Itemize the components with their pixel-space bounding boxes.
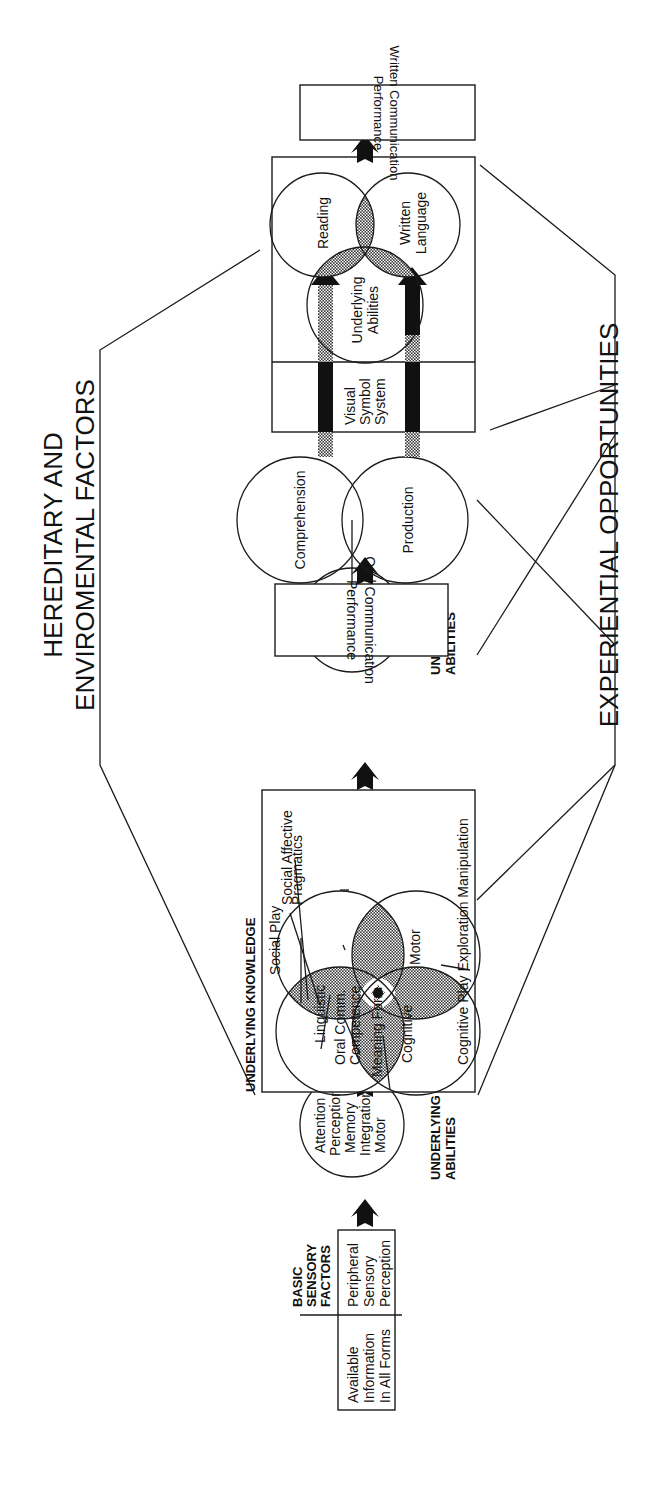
peripheral-line-1: Peripheral xyxy=(345,1243,361,1307)
label-underlying: Underlying xyxy=(349,277,365,344)
experiential-spoke-1 xyxy=(477,765,615,900)
label-language: Language xyxy=(413,192,429,255)
label-symbol: Symbol xyxy=(357,378,373,425)
label-cognitive-play: Cognitive Play Exploration Manipulation xyxy=(455,818,471,1065)
svg-text:Performance: Performance xyxy=(344,580,360,660)
heading-hereditary-line1: HEREDITARY AND xyxy=(38,432,68,657)
basic-sensory-label-1: BASIC xyxy=(290,1266,305,1307)
arrow-icon xyxy=(351,762,379,790)
available-line-2: Information xyxy=(361,1333,377,1403)
label-system: System xyxy=(372,378,388,425)
label-production: Production xyxy=(400,487,416,554)
svg-text:Memory: Memory xyxy=(342,1102,358,1153)
label-oral-comm-1: Oral Comm. xyxy=(332,990,348,1065)
available-line-1: Available xyxy=(345,1346,361,1403)
svg-text:ABILITIES: ABILITIES xyxy=(443,1117,458,1180)
basic-sensory-factors: BASIC SENSORY FACTORS Available Informat… xyxy=(290,1230,402,1410)
svg-text:Integration: Integration xyxy=(357,1090,373,1156)
label-linguistic: Linguistic xyxy=(312,985,328,1043)
label-meaning-form: Meaning Form xyxy=(369,987,385,1077)
knowledge-title: UNDERLYING KNOWLEDGE xyxy=(243,917,258,1092)
label-reading: Reading xyxy=(315,197,331,249)
svg-text:Perception: Perception xyxy=(327,1089,343,1156)
peripheral-line-2: Sensory xyxy=(361,1256,377,1307)
basic-sensory-label-3: FACTORS xyxy=(318,1245,333,1307)
label-oral-comm-2: Competence xyxy=(347,985,363,1065)
svg-text:UNDERLYING: UNDERLYING xyxy=(428,1095,443,1180)
heading-hereditary-line2: ENVIROMENTAL FACTORS xyxy=(70,379,100,711)
label-cognitive: Cognitive xyxy=(399,1004,415,1063)
peripheral-line-3: Perception xyxy=(377,1240,393,1307)
svg-text:Performance: Performance xyxy=(371,76,386,150)
arrow-icon xyxy=(351,1199,379,1227)
underlying-knowledge: UNDERLYING KNOWLEDGE xyxy=(243,790,480,1095)
label-social-play: Social Play xyxy=(267,906,283,975)
written-language-box: Visual Symbol System Reading Written Lan… xyxy=(270,157,475,457)
language-development-diagram: HEREDITARY AND ENVIROMENTAL FACTORS EXPE… xyxy=(0,0,651,1485)
label-visual: Visual xyxy=(342,387,358,425)
label-comprehension: Comprehension xyxy=(292,471,308,570)
heading-experiential: EXPERIENTIAL OPPORTUNITIES xyxy=(594,323,624,728)
svg-text:Motor: Motor xyxy=(372,1117,388,1153)
available-line-3: In All Forms xyxy=(377,1329,393,1403)
label-abilities: Abilities xyxy=(365,286,381,334)
svg-text:Attention: Attention xyxy=(312,1098,328,1153)
label-written: Written xyxy=(397,201,413,245)
label-motor: Motor xyxy=(407,929,423,965)
svg-text:Written Communication: Written Communication xyxy=(387,46,402,181)
hereditary-bracket-line xyxy=(100,250,260,1095)
basic-sensory-label-2: SENSORY xyxy=(304,1244,319,1307)
label-social-affective: Social Affective xyxy=(279,810,295,905)
